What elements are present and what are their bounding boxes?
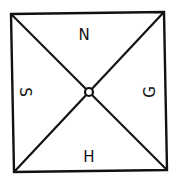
label-top: N (78, 26, 89, 44)
label-left: S (16, 87, 34, 97)
label-right: G (141, 86, 159, 98)
center-circle-icon (85, 88, 93, 96)
label-bottom: H (83, 148, 94, 166)
diagram-canvas: N H S G (0, 0, 178, 193)
